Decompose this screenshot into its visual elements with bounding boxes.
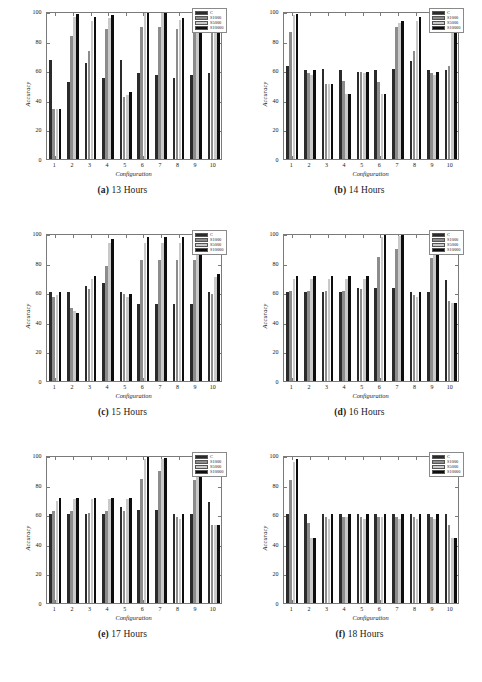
legend-swatch — [195, 460, 208, 464]
legend-swatch — [432, 465, 445, 469]
y-tick-label: 40 — [36, 320, 42, 326]
y-tick-label: 0 — [39, 601, 42, 607]
bar — [366, 72, 369, 159]
chart-panel-b: Accuracy020406080100CS1000S5000S10000123… — [241, 6, 478, 228]
bar-group — [407, 457, 425, 603]
chart-panel-c: Accuracy020406080100CS1000S5000S10000123… — [4, 228, 241, 450]
bar — [348, 276, 351, 381]
legend-item: S10000 — [195, 26, 223, 30]
y-tick-label: 20 — [36, 571, 42, 577]
legend-swatch — [195, 11, 208, 15]
bar-group — [187, 235, 205, 381]
x-tick-label: 3 — [325, 606, 328, 612]
bar — [454, 538, 457, 603]
bars-container — [284, 235, 458, 381]
x-tick-label: 10 — [210, 384, 216, 390]
bar — [59, 292, 62, 381]
x-tick-label: 1 — [290, 162, 293, 168]
legend-label: S10000 — [210, 470, 223, 474]
bar-group — [319, 457, 337, 603]
panel-caption-tag: (e) — [98, 629, 109, 639]
bar — [94, 17, 97, 159]
bar-group — [135, 457, 153, 603]
bar-group — [152, 235, 170, 381]
x-tick-label: 4 — [343, 162, 346, 168]
panel-caption: (b) 14 Hours — [334, 185, 384, 195]
legend-label: S10000 — [447, 470, 460, 474]
bar-group — [170, 13, 188, 159]
bar-group — [82, 457, 100, 603]
y-tick-label: 40 — [36, 542, 42, 548]
bar — [436, 237, 439, 381]
bar-group — [64, 457, 82, 603]
bars-container — [284, 457, 458, 603]
bar-group — [407, 235, 425, 381]
bar — [419, 292, 422, 381]
panel-caption-tag: (a) — [98, 185, 109, 195]
bar — [331, 514, 334, 603]
bar-group — [117, 235, 135, 381]
bar-group — [170, 457, 188, 603]
x-tick-label: 10 — [210, 606, 216, 612]
panel-caption-tag: (f) — [335, 629, 345, 639]
y-tick-label: 20 — [36, 127, 42, 133]
bar — [129, 294, 132, 381]
y-tick-label: 40 — [273, 320, 279, 326]
bar — [182, 237, 185, 381]
legend-swatch — [432, 455, 445, 459]
bar-group — [99, 457, 117, 603]
legend-swatch — [432, 243, 445, 247]
x-tick-label: 6 — [378, 162, 381, 168]
bar — [313, 538, 316, 603]
axes-box — [283, 12, 459, 160]
panel-caption: (f) 18 Hours — [335, 629, 383, 639]
panel-caption-text: 13 Hours — [111, 185, 147, 195]
bar-group — [205, 457, 222, 603]
plot-area-wrapper: Accuracy020406080100CS1000S5000S10000123… — [17, 450, 229, 625]
bars-container — [47, 13, 221, 159]
y-tick-label: 100 — [270, 9, 279, 15]
legend-swatch — [195, 21, 208, 25]
legend: CS1000S5000S10000 — [192, 230, 226, 255]
x-tick-label: 3 — [325, 162, 328, 168]
legend-swatch — [195, 243, 208, 247]
bar-group — [336, 13, 354, 159]
legend-swatch — [195, 455, 208, 459]
x-tick-label: 8 — [413, 606, 416, 612]
bar — [384, 234, 387, 381]
x-tick-label: 10 — [447, 384, 453, 390]
bar — [401, 234, 404, 381]
x-tick-label: 7 — [395, 162, 398, 168]
x-tick-label: 3 — [325, 384, 328, 390]
x-tick-label: 9 — [194, 162, 197, 168]
x-tick-label: 6 — [141, 162, 144, 168]
x-tick-label: 6 — [378, 384, 381, 390]
legend: CS1000S5000S10000 — [429, 8, 463, 33]
y-tick-label: 100 — [270, 231, 279, 237]
y-axis-ticks: 020406080100 — [264, 456, 282, 604]
bars-container — [47, 457, 221, 603]
bar — [111, 498, 114, 603]
legend-swatch — [432, 11, 445, 15]
y-tick-label: 20 — [273, 127, 279, 133]
bar — [111, 15, 114, 159]
bar — [94, 498, 97, 603]
x-tick-label: 7 — [158, 384, 161, 390]
panel-caption-text: 17 Hours — [111, 629, 147, 639]
bar — [129, 498, 132, 603]
bar-group — [354, 235, 372, 381]
x-tick-label: 10 — [210, 162, 216, 168]
bar — [147, 456, 150, 603]
y-tick-label: 80 — [273, 483, 279, 489]
panel-caption-text: 15 Hours — [111, 407, 147, 417]
y-tick-label: 40 — [273, 98, 279, 104]
legend-swatch — [432, 470, 445, 474]
bar — [217, 12, 220, 159]
x-tick-label: 4 — [106, 162, 109, 168]
bars-container — [47, 235, 221, 381]
bar-group — [82, 13, 100, 159]
bar-group — [284, 235, 302, 381]
bar-group — [372, 13, 390, 159]
x-tick-label: 5 — [123, 606, 126, 612]
bar-group — [284, 13, 302, 159]
